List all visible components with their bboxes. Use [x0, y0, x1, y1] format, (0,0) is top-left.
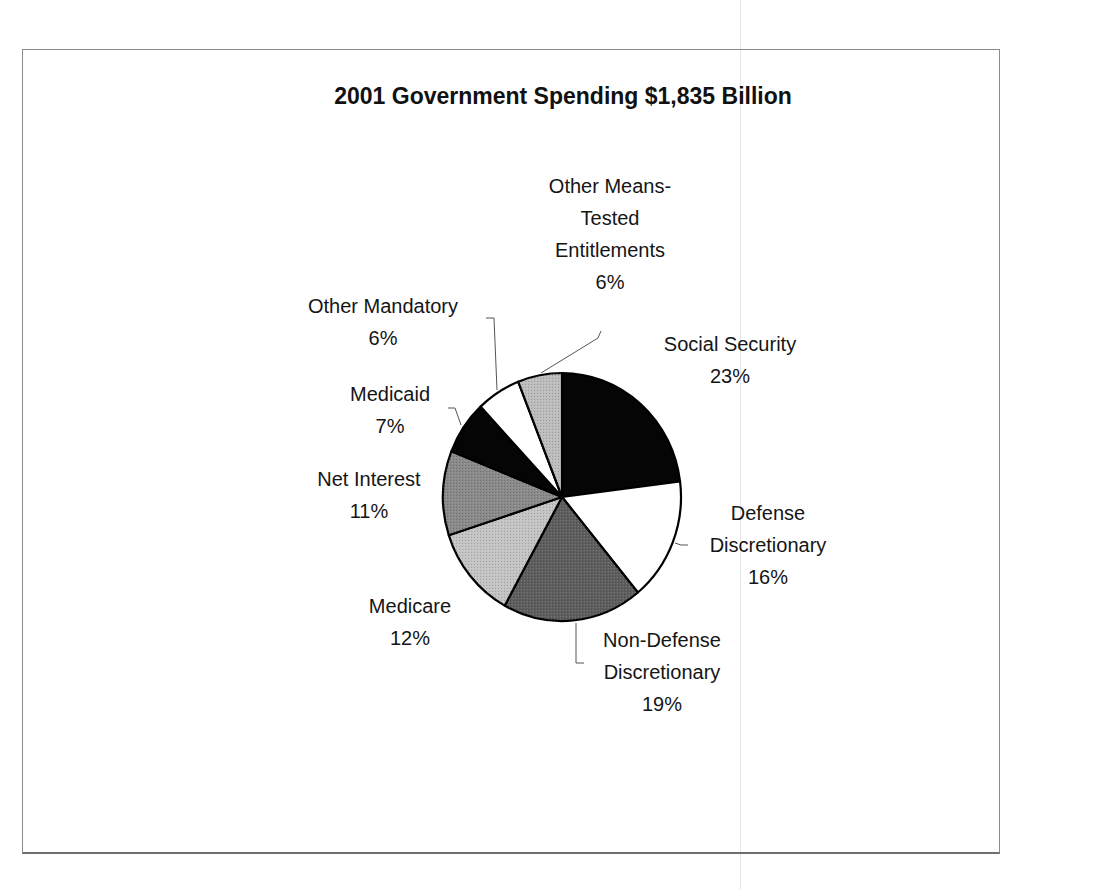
label-other-means: Other Means- Tested Entitlements 6% — [520, 170, 700, 298]
label-pct: 19% — [572, 688, 752, 720]
label-line: Net Interest — [294, 463, 444, 495]
leader-other-means — [541, 331, 601, 373]
label-pct: 6% — [520, 266, 700, 298]
label-line: Entitlements — [520, 234, 700, 266]
label-net-interest: Net Interest 11% — [294, 463, 444, 527]
label-medicaid: Medicaid 7% — [330, 378, 450, 442]
label-pct: 7% — [330, 410, 450, 442]
label-line: Discretionary — [678, 529, 858, 561]
label-line: Tested — [520, 202, 700, 234]
label-line: Medicare — [345, 590, 475, 622]
label-line: Other Mandatory — [270, 290, 496, 322]
label-line: Non-Defense — [572, 624, 752, 656]
label-line: Discretionary — [572, 656, 752, 688]
pie-chart — [0, 0, 1118, 890]
label-pct: 6% — [270, 322, 496, 354]
label-social-security: Social Security 23% — [630, 328, 830, 392]
label-pct: 23% — [630, 360, 830, 392]
label-line: Medicaid — [330, 378, 450, 410]
label-line: Social Security — [630, 328, 830, 360]
label-medicare: Medicare 12% — [345, 590, 475, 654]
label-line: Other Means- — [520, 170, 700, 202]
label-nondefense: Non-Defense Discretionary 19% — [572, 624, 752, 720]
label-pct: 11% — [294, 495, 444, 527]
label-defense: Defense Discretionary 16% — [678, 497, 858, 593]
label-other-mandatory: Other Mandatory 6% — [270, 290, 496, 354]
label-pct: 16% — [678, 561, 858, 593]
label-pct: 12% — [345, 622, 475, 654]
label-line: Defense — [678, 497, 858, 529]
pie-slices — [443, 373, 681, 621]
